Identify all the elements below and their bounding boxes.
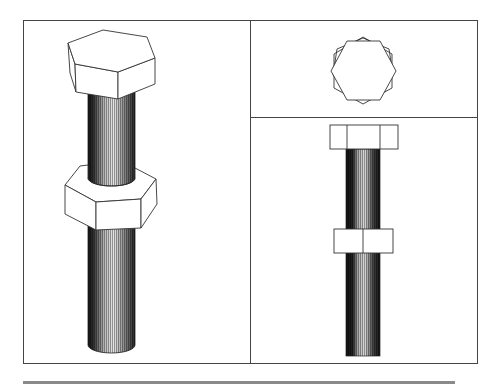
front-bolt-head [330,125,398,149]
front-nut [334,229,393,253]
iso-bolt-head [68,30,155,99]
bolt-nut-drawing [0,0,500,384]
